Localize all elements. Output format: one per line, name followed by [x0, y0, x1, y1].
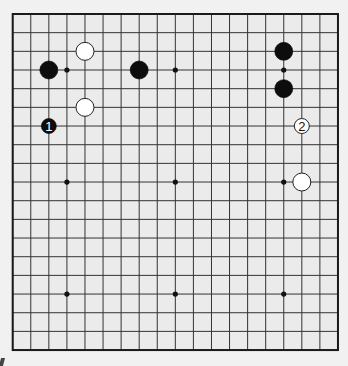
star-point-icon — [173, 179, 178, 184]
move-number-label: 1 — [45, 119, 52, 134]
white-stone-icon — [76, 98, 94, 116]
white-stone — [76, 42, 94, 60]
star-point-icon — [281, 67, 286, 72]
star-point-icon — [173, 291, 178, 296]
black-stone — [275, 42, 293, 60]
black-stone-move-1: 1 — [41, 119, 56, 134]
white-stone-icon — [76, 42, 94, 60]
white-stone-move-2: 2 — [294, 119, 309, 134]
white-stone — [293, 173, 311, 191]
star-point-icon — [64, 179, 69, 184]
black-stone — [275, 80, 293, 98]
star-point-icon — [64, 291, 69, 296]
white-stone — [76, 98, 94, 116]
go-board: 12 — [0, 0, 348, 366]
black-stone-icon — [275, 80, 293, 98]
black-stone-icon — [130, 61, 148, 79]
star-point-icon — [281, 291, 286, 296]
star-point-icon — [173, 67, 178, 72]
black-stone — [130, 61, 148, 79]
black-stone — [40, 61, 58, 79]
black-stone-icon — [40, 61, 58, 79]
move-number-label: 2 — [298, 119, 305, 134]
star-point-icon — [281, 179, 286, 184]
white-stone-icon — [293, 173, 311, 191]
black-stone-icon — [275, 42, 293, 60]
star-point-icon — [64, 67, 69, 72]
go-board-grid: 12 — [0, 0, 348, 366]
